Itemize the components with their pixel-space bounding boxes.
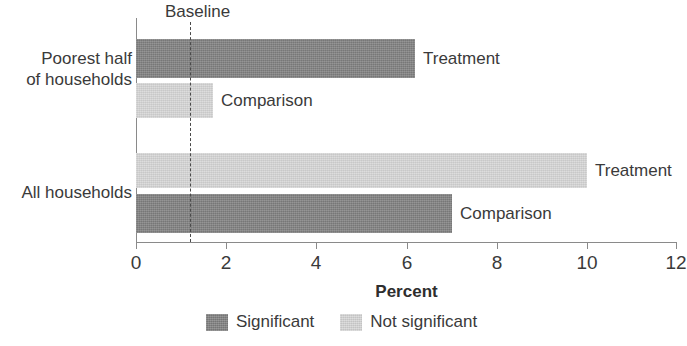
plot-area: Treatment Comparison Treatment Compariso… <box>136 18 677 242</box>
bar-poorest-treatment <box>136 39 415 78</box>
bar-all-treatment <box>136 153 587 188</box>
category-label-line1: All households <box>21 182 132 203</box>
x-tick-10 <box>587 242 588 249</box>
bar-poorest-comparison <box>136 83 213 118</box>
bar-label-all-treatment: Treatment <box>595 161 672 181</box>
x-tick-label-2: 2 <box>221 252 232 274</box>
x-axis-title: Percent <box>136 282 677 302</box>
category-label-line2: of households <box>26 69 132 90</box>
x-tick-4 <box>316 242 317 249</box>
x-tick-label-4: 4 <box>311 252 322 274</box>
category-label-all-households: All households <box>21 182 132 203</box>
legend-label-significant: Significant <box>236 312 314 332</box>
x-tick-6 <box>407 242 408 249</box>
bar-label-poorest-treatment: Treatment <box>423 49 500 69</box>
legend-item-significant[interactable]: Significant <box>206 312 314 332</box>
baseline-annotation-label: Baseline <box>165 2 230 22</box>
baseline-reference-line <box>190 22 191 242</box>
x-tick-8 <box>497 242 498 249</box>
legend-swatch-not-significant-icon <box>340 314 362 331</box>
category-label-poorest-half: Poorest half of households <box>26 48 132 91</box>
legend-swatch-significant-icon <box>206 314 228 331</box>
bar-all-comparison <box>136 194 452 233</box>
x-tick-0 <box>136 242 137 249</box>
chart-legend: Significant Not significant <box>0 312 683 332</box>
x-tick-label-8: 8 <box>492 252 503 274</box>
x-tick-label-12: 12 <box>665 252 686 274</box>
x-tick-12 <box>676 242 677 249</box>
category-label-line1: Poorest half <box>26 48 132 69</box>
x-tick-2 <box>226 242 227 249</box>
x-tick-label-6: 6 <box>402 252 413 274</box>
x-tick-label-0: 0 <box>131 252 142 274</box>
bar-label-poorest-comparison: Comparison <box>221 91 313 111</box>
x-tick-label-10: 10 <box>576 252 597 274</box>
legend-label-not-significant: Not significant <box>370 312 477 332</box>
legend-item-not-significant[interactable]: Not significant <box>340 312 477 332</box>
bar-label-all-comparison: Comparison <box>460 204 552 224</box>
